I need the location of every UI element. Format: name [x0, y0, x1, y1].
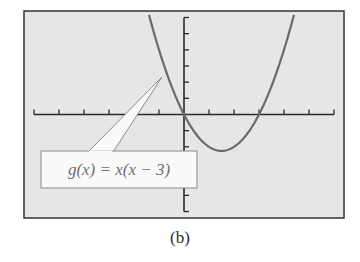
graph-window: g(x) = x(x − 3) — [0, 0, 360, 225]
figure-caption: (b) — [0, 228, 360, 248]
function-label: g(x) = x(x − 3) — [68, 160, 171, 179]
